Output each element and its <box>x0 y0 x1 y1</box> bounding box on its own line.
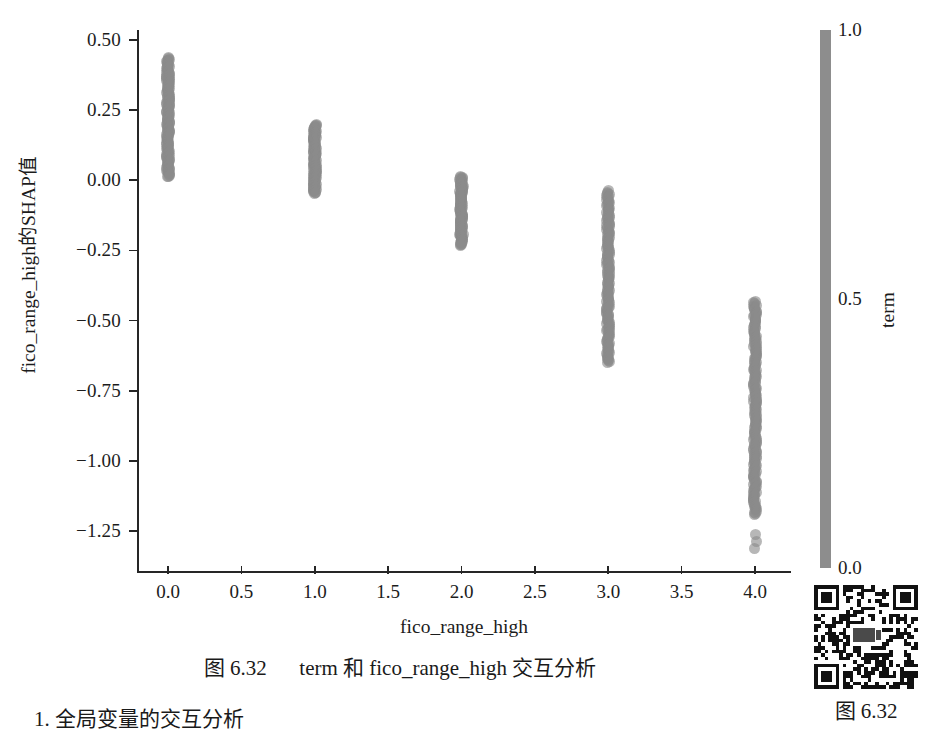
body-text-line: 1. 全局变量的交互分析 <box>34 707 244 734</box>
colorbar-gradient <box>820 30 831 568</box>
x-tick-label: 2.0 <box>432 582 492 601</box>
figure-caption-text: term 和 fico_range_high 交互分析 <box>299 656 596 680</box>
figure-scatter-shap: 0.500.250.00−0.25−0.50−0.75−1.00−1.25 0.… <box>0 0 800 660</box>
x-tick-label: 3.5 <box>652 582 712 601</box>
y-tick-label: 0.00 <box>47 170 121 189</box>
figure-caption: 图 6.32 term 和 fico_range_high 交互分析 <box>0 655 800 681</box>
y-tick-label: −0.25 <box>47 240 121 259</box>
scatter-point <box>455 240 466 251</box>
x-tick-label: 1.0 <box>285 582 345 601</box>
y-axis-title: fico_range_high的SHAP值 <box>19 30 39 500</box>
scatter-point <box>163 171 174 182</box>
y-tick-label: −1.00 <box>47 451 121 470</box>
colorbar: 1.00.50.0 term <box>800 0 942 660</box>
qr-code-icon[interactable] <box>814 585 918 689</box>
qr-block: 图 6.32 <box>806 585 926 723</box>
colorbar-tick-label: 0.5 <box>838 289 862 308</box>
y-tick-label: 0.25 <box>47 100 121 119</box>
y-tick-label: 0.50 <box>47 30 121 49</box>
x-tick-label: 3.0 <box>578 582 638 601</box>
colorbar-tick-label: 1.0 <box>838 20 862 39</box>
scatter-point <box>602 357 613 368</box>
colorbar-tick-label: 0.0 <box>838 558 862 577</box>
scatter-point-outlier <box>749 543 760 554</box>
scatter-point <box>749 509 760 520</box>
x-tick-label: 2.5 <box>505 582 565 601</box>
y-tick-label: −0.50 <box>47 311 121 330</box>
x-axis-title: fico_range_high <box>137 617 791 637</box>
y-tick-label: −1.25 <box>47 521 121 540</box>
x-tick-label: 4.0 <box>725 582 785 601</box>
x-tick-label: 0.5 <box>211 582 271 601</box>
y-tick-label: −0.75 <box>47 381 121 400</box>
x-tick-label: 0.0 <box>138 582 198 601</box>
page-root: 0.500.250.00−0.25−0.50−0.75−1.00−1.25 0.… <box>0 0 942 734</box>
qr-caption: 图 6.32 <box>806 699 926 723</box>
figure-caption-number: 图 6.32 <box>204 656 267 680</box>
plot-area <box>137 30 790 572</box>
x-tick-label: 1.5 <box>358 582 418 601</box>
scatter-point <box>309 188 320 199</box>
colorbar-title: term <box>878 270 898 350</box>
